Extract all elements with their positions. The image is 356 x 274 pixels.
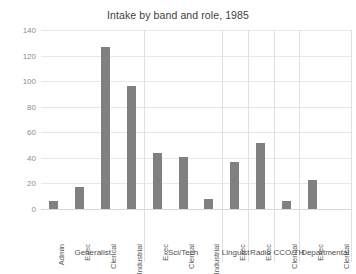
y-axis-tick-label: 120 (0, 51, 36, 60)
bar (204, 199, 213, 209)
group-label: Departmental (299, 248, 351, 257)
bar (101, 47, 110, 209)
bar (179, 157, 188, 209)
bar (75, 187, 84, 209)
y-axis-tick-label: 40 (0, 153, 36, 162)
bar (308, 180, 317, 209)
y-axis-tick-label: 80 (0, 102, 36, 111)
bars-layer (41, 30, 351, 209)
y-axis-tick-label: 0 (0, 205, 36, 214)
y-axis-tick-label: 60 (0, 128, 36, 137)
y-axis: 020406080100120140 (0, 30, 36, 209)
bar (230, 162, 239, 209)
chart-title: Intake by band and role, 1985 (0, 9, 356, 21)
y-axis-tick-label: 100 (0, 77, 36, 86)
y-axis-tick-label: 140 (0, 26, 36, 35)
group-separator (351, 30, 352, 262)
group-label: Radio (248, 248, 274, 257)
group-label: Generalist (41, 248, 144, 257)
group-label: CCO/TH (274, 248, 300, 257)
group-label: Linguist (222, 248, 248, 257)
bar (153, 153, 162, 209)
group-axis-labels: GeneralistSci/TechLinguistRadioCCO/THDep… (41, 248, 351, 262)
y-axis-tick-label: 20 (0, 179, 36, 188)
bar (49, 201, 58, 209)
group-label: Sci/Tech (144, 248, 222, 257)
bar (282, 201, 291, 209)
bar-chart: Intake by band and role, 1985 0204060801… (0, 0, 356, 274)
bar (127, 86, 136, 209)
bar (256, 143, 265, 209)
role-axis-labels: AdminExecClericalIndustrialExecClericalI… (41, 210, 351, 246)
